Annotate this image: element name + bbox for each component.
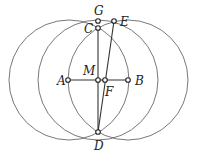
point-G: [96, 19, 101, 24]
label-G: G: [94, 4, 104, 18]
point-D: [96, 130, 101, 135]
segment-ED: [98, 21, 114, 132]
point-E: [112, 19, 117, 24]
point-F: [103, 78, 108, 83]
point-B: [126, 78, 131, 83]
label-M: M: [82, 64, 96, 78]
label-B: B: [134, 74, 144, 88]
point-A: [66, 78, 71, 83]
label-A: A: [56, 74, 66, 88]
label-F: F: [104, 85, 114, 99]
point-M: [96, 78, 101, 83]
label-D: D: [93, 139, 104, 153]
point-C: [96, 26, 101, 31]
geometry-diagram: A M F B G C E D: [0, 0, 198, 155]
segments: [68, 21, 128, 132]
label-E: E: [119, 15, 129, 29]
label-C: C: [84, 22, 93, 36]
